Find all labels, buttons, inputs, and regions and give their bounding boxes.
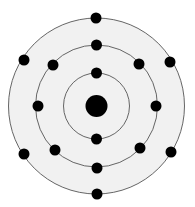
electron (151, 101, 162, 112)
electron (166, 147, 177, 158)
nucleus (86, 95, 108, 117)
atom-svg (0, 0, 195, 207)
electron (19, 55, 30, 66)
electron (91, 68, 102, 79)
electron (33, 101, 44, 112)
electron (92, 163, 103, 174)
electron (165, 57, 176, 68)
electron (19, 149, 30, 160)
electron (91, 40, 102, 51)
electron (50, 145, 61, 156)
electron (134, 59, 145, 70)
bohr-atom-diagram (0, 0, 195, 207)
electron (91, 13, 102, 24)
electron (135, 143, 146, 154)
electron (91, 134, 102, 145)
electron (92, 189, 103, 200)
electron (48, 60, 59, 71)
